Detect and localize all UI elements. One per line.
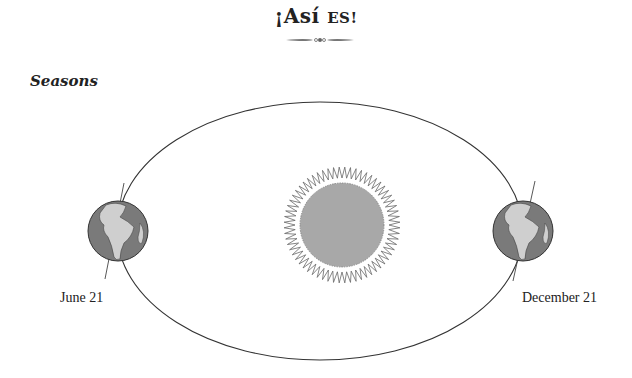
label-december-21: December 21 — [522, 290, 597, 306]
label-june-21: June 21 — [60, 290, 103, 306]
sun-icon — [284, 167, 400, 283]
earth-globe-icon — [88, 183, 148, 279]
seasons-diagram — [0, 0, 632, 378]
earth-globe-icon — [493, 181, 553, 281]
